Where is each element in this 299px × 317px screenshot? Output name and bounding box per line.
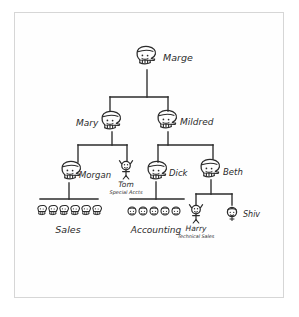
clerk-icon (139, 207, 147, 215)
node-dick[interactable]: Dick (148, 161, 188, 178)
clerk-icon (150, 207, 158, 215)
worker-icon (71, 205, 80, 214)
node-label-shiv: Shiv (243, 210, 260, 219)
group-accounting[interactable]: Accounting (128, 207, 181, 235)
person-body-icon (227, 207, 236, 216)
node-label-dick: Dick (169, 168, 189, 178)
person-head-icon (137, 46, 155, 63)
clerk-icon (128, 207, 136, 215)
node-label-mildred: Mildred (180, 117, 214, 127)
worker-icon (82, 205, 91, 214)
shiv-stick-body (230, 217, 235, 221)
node-beth[interactable]: Beth (201, 159, 243, 177)
group-sales[interactable]: Sales (38, 205, 102, 235)
person-body-icon (189, 205, 202, 223)
person-head-icon (158, 110, 176, 127)
connector-lines (40, 70, 232, 205)
node-mary[interactable]: Mary (76, 111, 121, 128)
node-label-beth: Beth (223, 167, 243, 177)
node-label-tom: Tom (118, 180, 134, 189)
node-sublabel-harry: Technical Sales (178, 234, 215, 239)
node-marge[interactable]: Marge (137, 46, 193, 63)
node-harry[interactable]: Harry Technical Sales (178, 205, 215, 239)
worker-icon (49, 205, 58, 214)
clerk-icon (172, 207, 180, 215)
person-head-icon (102, 111, 120, 128)
person-body-icon (119, 161, 132, 179)
person-head-icon (62, 161, 80, 178)
node-shiv[interactable]: Shiv (227, 207, 260, 221)
node-label-harry: Harry (186, 224, 207, 233)
accounting-clerk-row (128, 207, 180, 215)
person-head-icon (148, 161, 166, 178)
worker-icon (38, 205, 47, 214)
person-head-icon (201, 159, 219, 176)
node-label-mary: Mary (76, 118, 99, 128)
node-mildred[interactable]: Mildred (158, 110, 214, 127)
node-label-marge: Marge (163, 52, 193, 63)
sales-worker-row (38, 205, 102, 214)
node-sublabel-tom: Special Accts (109, 189, 142, 196)
worker-icon (93, 205, 102, 214)
clerk-icon (161, 207, 169, 215)
node-tom[interactable]: Tom Special Accts (109, 161, 142, 196)
node-label-morgan: Morgan (79, 170, 111, 180)
org-chart-drawing: Marge Mary Mildred Morgan Tom Special Ac… (0, 0, 299, 317)
node-morgan[interactable]: Morgan (62, 161, 111, 180)
worker-icon (60, 205, 69, 214)
group-label-accounting: Accounting (130, 225, 182, 235)
screenshot-canvas: Marge Mary Mildred Morgan Tom Special Ac… (0, 0, 299, 317)
group-label-sales: Sales (55, 224, 80, 235)
